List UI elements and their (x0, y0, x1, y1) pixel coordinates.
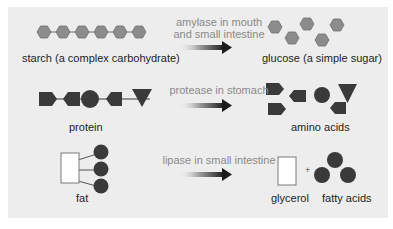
amylase-enzyme-label-line2: and small intestine (160, 28, 278, 40)
plus-sign: + (305, 164, 310, 177)
protease-enzyme-label: protease in stomach (160, 84, 278, 96)
fat-label: fat (76, 192, 88, 205)
digestion-arrow-icon (180, 168, 232, 181)
glucose-label: glucose (a simple sugar) (262, 52, 382, 65)
digestion-arrow-icon (180, 99, 232, 112)
amylase-enzyme-label-line1: amylase in mouth (160, 16, 278, 28)
digestion-arrow-icon (180, 41, 232, 54)
starch-chain-icon (37, 26, 146, 38)
fat-molecule-icon (61, 145, 109, 194)
amino-acids-icon (266, 83, 357, 115)
glycerol-label: glycerol (271, 192, 309, 205)
protein-label: protein (69, 121, 103, 134)
fatty-acids-label: fatty acids (322, 192, 372, 205)
glucose-molecules-icon (268, 18, 344, 46)
fatty-acids-icon (314, 152, 356, 183)
amino-acids-label: amino acids (291, 121, 350, 134)
starch-label: starch (a complex carbohydrate) (22, 52, 180, 65)
protein-chain-icon (39, 89, 152, 108)
lipase-enzyme-label: lipase in small intestine (150, 154, 288, 166)
